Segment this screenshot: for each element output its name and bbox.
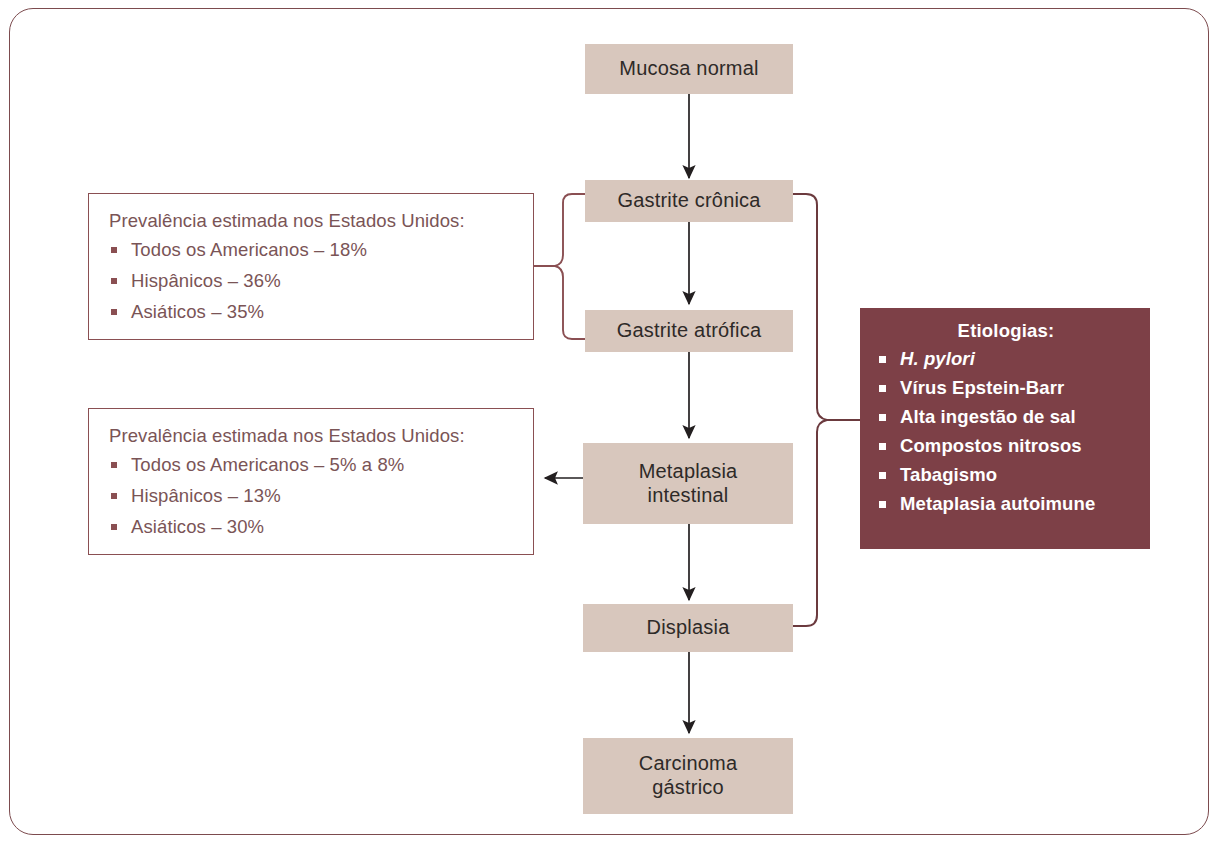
list-item: Todos os Americanos – 18% [109, 239, 513, 261]
flow-box-metaplasia-intestinal: Metaplasia intestinal [583, 443, 793, 524]
bullet-square-icon [879, 472, 886, 479]
prevalence-metaplasia-title: Prevalência estimada nos Estados Unidos: [109, 425, 513, 447]
flow-box-label-line1: Carcinoma [639, 752, 738, 776]
list-item-text: Metaplasia autoimune [900, 493, 1095, 514]
bullet-square-icon [879, 385, 886, 392]
list-item: Alta ingestão de sal [876, 406, 1136, 428]
flow-box-mucosa-normal: Mucosa normal [585, 44, 793, 94]
flow-box-gastrite-cronica: Gastrite crônica [585, 180, 793, 222]
flow-box-label: Displasia [647, 616, 730, 640]
list-item: Asiáticos – 35% [109, 301, 513, 323]
flow-box-label: Mucosa normal [619, 57, 758, 81]
list-item-text: Alta ingestão de sal [900, 406, 1076, 427]
bullet-square-icon [111, 524, 117, 530]
prevalence-gastritis-list: Todos os Americanos – 18% Hispânicos – 3… [109, 239, 513, 323]
list-item: Compostos nitrosos [876, 435, 1136, 457]
bullet-square-icon [879, 414, 886, 421]
etiologies-title: Etiologias: [876, 320, 1136, 342]
flow-box-carcinoma-gastrico: Carcinoma gástrico [583, 738, 793, 814]
list-item: Hispânicos – 36% [109, 270, 513, 292]
bullet-square-icon [111, 309, 117, 315]
bullet-square-icon [111, 278, 117, 284]
flow-box-label-line2: gástrico [652, 776, 724, 800]
list-item-text: Compostos nitrosos [900, 435, 1082, 456]
list-item-text: Hispânicos – 13% [131, 485, 281, 506]
flow-box-gastrite-atrofica: Gastrite atrófica [585, 310, 793, 352]
etiologies-list: H. pylori Vírus Epstein-Barr Alta ingest… [876, 348, 1136, 515]
flow-box-label: Gastrite crônica [617, 189, 760, 213]
list-item: Todos os Americanos – 5% a 8% [109, 454, 513, 476]
list-item: Tabagismo [876, 464, 1136, 486]
bullet-square-icon [111, 493, 117, 499]
bullet-square-icon [879, 443, 886, 450]
list-item-text: Hispânicos – 36% [131, 270, 281, 291]
list-item-text: Todos os Americanos – 18% [131, 239, 367, 260]
bullet-square-icon [111, 462, 117, 468]
prevalence-metaplasia-box: Prevalência estimada nos Estados Unidos:… [88, 408, 534, 555]
list-item-text: Tabagismo [900, 464, 997, 485]
list-item-text: Asiáticos – 35% [131, 301, 264, 322]
bullet-square-icon [879, 501, 886, 508]
list-item: H. pylori [876, 348, 1136, 370]
flow-box-displasia: Displasia [583, 604, 793, 652]
list-item: Hispânicos – 13% [109, 485, 513, 507]
list-item-text: H. pylori [900, 348, 975, 369]
list-item-text: Asiáticos – 30% [131, 516, 264, 537]
list-item-text: Todos os Americanos – 5% a 8% [131, 454, 404, 475]
flow-box-label-line1: Metaplasia [639, 460, 738, 484]
etiologies-box: Etiologias: H. pylori Vírus Epstein-Barr… [860, 308, 1150, 549]
list-item: Vírus Epstein-Barr [876, 377, 1136, 399]
list-item: Metaplasia autoimune [876, 493, 1136, 515]
prevalence-gastritis-box: Prevalência estimada nos Estados Unidos:… [88, 193, 534, 340]
list-item-text: Vírus Epstein-Barr [900, 377, 1064, 398]
list-item: Asiáticos – 30% [109, 516, 513, 538]
flow-box-label-line2: intestinal [648, 484, 729, 508]
prevalence-metaplasia-list: Todos os Americanos – 5% a 8% Hispânicos… [109, 454, 513, 538]
flow-box-label: Gastrite atrófica [617, 319, 762, 343]
diagram-page: Mucosa normal Gastrite crônica Gastrite … [0, 0, 1220, 856]
prevalence-gastritis-title: Prevalência estimada nos Estados Unidos: [109, 210, 513, 232]
bullet-square-icon [111, 247, 117, 253]
bullet-square-icon [879, 356, 886, 363]
